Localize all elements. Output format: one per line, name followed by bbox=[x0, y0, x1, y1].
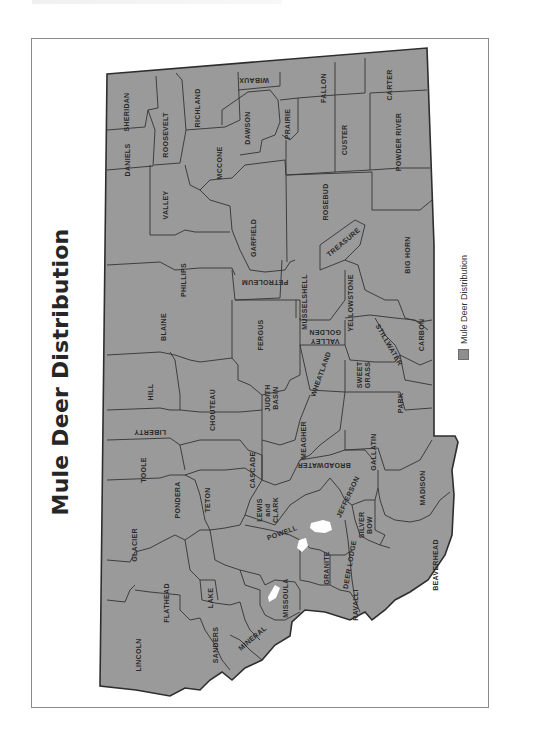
county-label-musselshell: MUSSELSHELL bbox=[301, 274, 308, 330]
county-label-blaine: BLAINE bbox=[160, 313, 167, 341]
county-label-toole: TOOLE bbox=[140, 457, 147, 483]
county-label-daniels: DANIELS bbox=[124, 144, 131, 177]
state-outline bbox=[100, 48, 458, 696]
county-label-lincoln: LINCOLN bbox=[135, 638, 142, 671]
county-label-meagher: MEAGHER bbox=[300, 421, 307, 459]
county-label-ravalli: RAVALLI bbox=[352, 589, 359, 620]
county-label-broadwater: BROADWATER bbox=[297, 462, 350, 469]
county-label-missoula: MISSOULA bbox=[282, 578, 289, 617]
county-label-phillips: PHILLIPS bbox=[180, 263, 187, 297]
county-label-hill: HILL bbox=[147, 383, 154, 400]
county-label-lake: LAKE bbox=[207, 588, 214, 608]
county-label-yellowstone: YELLOWSTONE bbox=[347, 274, 354, 331]
county-label-prairie: PRAIRIE bbox=[284, 109, 291, 140]
county-label-sweet-grass-1: SWEET bbox=[356, 361, 363, 388]
legend: Mule Deer Distribution bbox=[458, 255, 469, 360]
county-label-lewis-and-clark-2: and bbox=[264, 503, 271, 516]
county-label-wibaux: WIBAUX bbox=[239, 77, 269, 84]
county-label-garfield: GARFIELD bbox=[250, 219, 257, 257]
county-label-sheridan: SHERIDAN bbox=[123, 93, 130, 132]
county-label-granite: GRANITE bbox=[323, 551, 330, 585]
county-label-silver-bow-2: BOW bbox=[366, 516, 373, 534]
county-label-valley: VALLEY bbox=[162, 191, 169, 220]
legend-swatch-distribution bbox=[458, 349, 469, 360]
county-label-fergus: FERGUS bbox=[257, 319, 264, 350]
county-label-dawson: DAWSON bbox=[244, 111, 251, 144]
county-label-lewis-and-clark-3: CLARK bbox=[272, 497, 279, 523]
county-label-beaverhead: BEAVERHEAD bbox=[432, 539, 439, 591]
county-label-liberty: LIBERTY bbox=[134, 429, 166, 436]
county-label-chouteau: CHOUTEAU bbox=[209, 389, 216, 431]
county-label-fallon: FALLON bbox=[320, 73, 327, 103]
county-label-madison: MADISON bbox=[419, 470, 426, 505]
county-label-pondera: PONDERA bbox=[174, 481, 181, 518]
county-label-petroleum: PETROLEUM bbox=[242, 279, 289, 286]
county-label-judith-basin-2: BASIN bbox=[272, 386, 279, 409]
county-label-rosebud: ROSEBUD bbox=[322, 183, 329, 220]
county-label-glacier: GLACIER bbox=[131, 528, 138, 562]
county-label-cascade: CASCADE bbox=[249, 452, 256, 489]
county-label-custer: CUSTER bbox=[341, 125, 348, 156]
county-label-sweet-grass-2: GRASS bbox=[364, 362, 371, 388]
county-label-park: PARK bbox=[397, 393, 404, 414]
county-label-teton: TETON bbox=[204, 487, 211, 512]
county-label-roosevelt: ROOSEVELT bbox=[162, 112, 169, 158]
legend-label-distribution: Mule Deer Distribution bbox=[459, 255, 469, 344]
county-label-lewis-and-clark-1: LEWIS bbox=[256, 498, 263, 522]
county-label-richland: RICHLAND bbox=[194, 89, 201, 128]
county-label-carbon: CARBON bbox=[418, 319, 425, 352]
montana-county-map: SHERIDAN DANIELS ROOSEVELT RICHLAND WIBA… bbox=[0, 0, 539, 752]
county-label-sanders: SANDERS bbox=[212, 627, 219, 663]
county-label-judith-basin-1: JUDITH bbox=[264, 384, 271, 411]
county-label-silver-bow-1: SILVER bbox=[358, 512, 365, 539]
county-label-gallatin: GALLATIN bbox=[370, 433, 377, 470]
county-label-big-horn: BIG HORN bbox=[404, 236, 411, 273]
county-label-mccone: MCCONE bbox=[216, 147, 223, 180]
county-label-carter: CARTER bbox=[386, 70, 393, 101]
county-label-flathead: FLATHEAD bbox=[163, 583, 170, 623]
county-label-golden-valley-2: VALLEY bbox=[311, 338, 340, 345]
county-label-powder-river: POWDER RIVER bbox=[395, 113, 402, 171]
county-label-golden-valley-1: GOLDEN bbox=[309, 329, 341, 336]
